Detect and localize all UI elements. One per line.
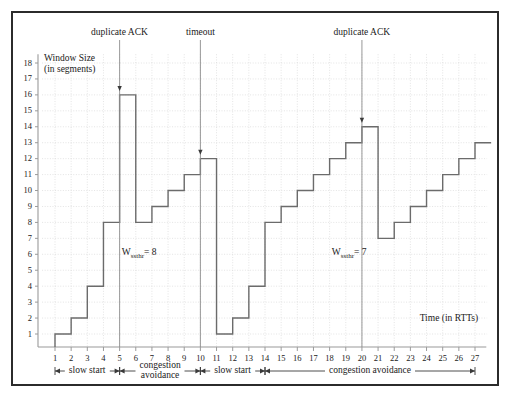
y-axis-title-line2: (in segments) [44,64,95,75]
x-tick-label-15: 15 [273,353,289,363]
x-tick-label-26: 26 [451,353,467,363]
x-tick-label-12: 12 [225,353,241,363]
event-arrow-head [117,86,121,91]
event-label: duplicate ACK [333,27,390,37]
y-tick-label-10: 10 [16,185,32,195]
x-tick-label-11: 11 [209,353,225,363]
ssthresh-label-subscript: ssthr [131,252,144,260]
y-tick-label-4: 4 [16,281,32,291]
event-arrow-head [198,150,202,155]
phase-label: congestionavoidance [140,360,181,380]
phase-bracket-arrow-right [470,368,475,373]
x-tick-label-27: 27 [467,353,483,363]
y-tick-label-14: 14 [16,121,32,131]
ssthresh-label-value: = 7 [354,247,366,257]
x-tick-label-22: 22 [386,353,402,363]
phase-bracket-arrow-right [260,368,265,373]
y-axis-title-line1: Window Size [44,53,95,64]
y-tick-label-9: 9 [16,201,32,211]
x-tick-label-10: 10 [192,353,208,363]
x-tick-label-5: 5 [112,353,128,363]
phase-bracket-arrow-left [200,368,205,373]
ssthresh-label-w: W [332,247,341,257]
x-tick-label-25: 25 [435,353,451,363]
y-tick-label-18: 18 [16,58,32,68]
y-tick-label-13: 13 [16,137,32,147]
phase-bracket-arrow-left [55,368,60,373]
event-label: duplicate ACK [91,27,148,37]
x-tick-label-20: 20 [354,353,370,363]
phase-label: congestion avoidance [329,365,411,375]
x-tick-label-2: 2 [63,353,79,363]
y-tick-label-6: 6 [16,249,32,259]
phase-bracket-arrow-right [195,368,200,373]
x-tick-label-17: 17 [305,353,321,363]
y-tick-label-8: 8 [16,217,32,227]
y-tick-label-1: 1 [16,329,32,339]
phase-label-line2: avoidance [140,370,181,380]
x-tick-label-21: 21 [370,353,386,363]
y-tick-label-2: 2 [16,313,32,323]
ssthresh-label: Wssthr= 7 [332,247,367,260]
x-tick-label-24: 24 [419,353,435,363]
x-axis-title: Time (in RTTs) [420,313,479,324]
figure-root: 1234567891011121314151617181234567891011… [0,0,512,407]
y-tick-label-11: 11 [16,169,32,179]
y-tick-label-3: 3 [16,297,32,307]
y-tick-label-12: 12 [16,153,32,163]
phase-bracket-arrow-left [265,368,270,373]
y-tick-label-5: 5 [16,265,32,275]
event-label: timeout [186,27,215,37]
y-axis-title: Window Size(in segments) [44,53,95,75]
y-tick-label-15: 15 [16,105,32,115]
y-tick-label-17: 17 [16,73,32,83]
event-arrow-head [360,118,364,123]
y-tick-label-7: 7 [16,233,32,243]
x-tick-label-16: 16 [289,353,305,363]
x-tick-label-14: 14 [257,353,273,363]
phase-bracket-arrow-left [120,368,125,373]
x-tick-label-1: 1 [47,353,63,363]
y-tick-label-16: 16 [16,89,32,99]
x-tick-label-19: 19 [338,353,354,363]
ssthresh-label: Wssthr= 8 [122,247,157,260]
ssthresh-label-value: = 8 [144,247,156,257]
phase-label: slow start [69,365,106,375]
ssthresh-label-subscript: ssthr [341,252,354,260]
ssthresh-label-w: W [122,247,131,257]
x-tick-label-23: 23 [402,353,418,363]
phase-bracket-arrow-right [115,368,120,373]
x-tick-label-3: 3 [79,353,95,363]
phase-label-line1: congestion [140,360,181,370]
x-tick-label-13: 13 [241,353,257,363]
phase-label: slow start [214,365,251,375]
congestion-window-curve [55,95,491,347]
x-tick-label-18: 18 [322,353,338,363]
x-tick-label-4: 4 [95,353,111,363]
